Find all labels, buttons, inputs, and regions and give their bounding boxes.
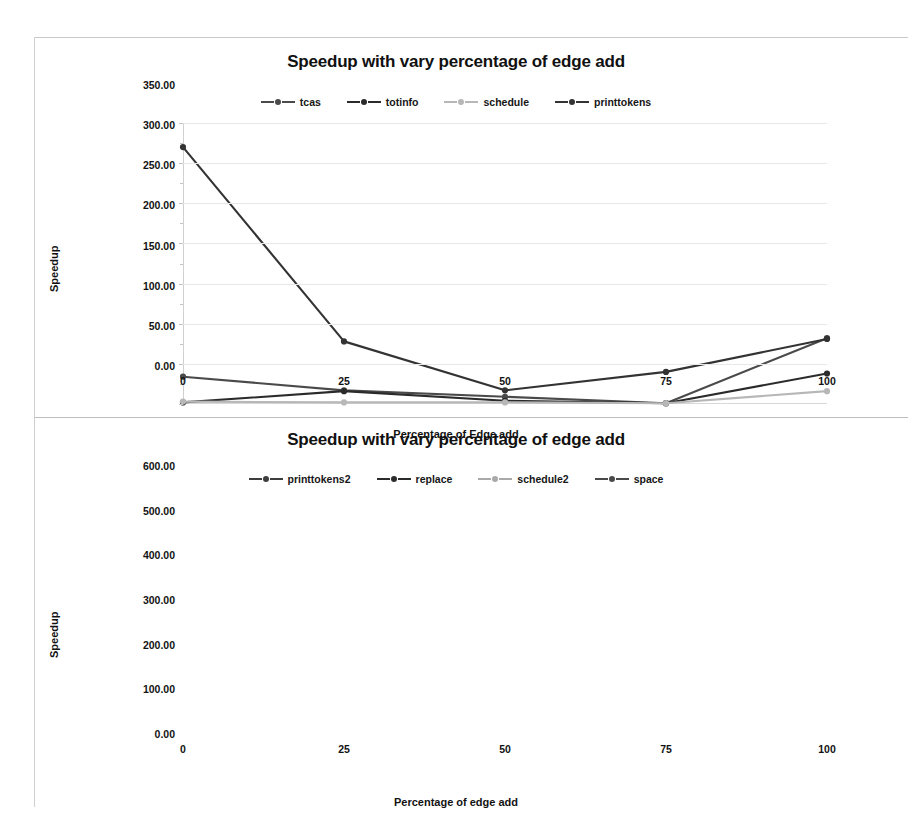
chart-panel-bottom: Speedup with vary percentage of edge add… <box>0 418 912 808</box>
legend-label: tcas <box>300 96 321 108</box>
chart-legend: tcas totinfo schedule printtokens <box>0 96 912 108</box>
y-axis-title: Speedup <box>48 246 60 292</box>
x-axis-tick-label: 75 <box>646 375 686 387</box>
y-axis-tick-label: 400.00 <box>113 549 175 561</box>
y-axis-tick-label: 600.00 <box>113 460 175 472</box>
legend-line-icon <box>270 478 283 481</box>
data-point-schedule <box>502 399 508 405</box>
y-axis-tick-label: 0.00 <box>113 728 175 740</box>
y-axis-tick <box>179 364 183 365</box>
x-axis-tick-label: 50 <box>485 743 525 755</box>
y-axis-title: Speedup <box>48 612 60 658</box>
legend-item-schedule2[interactable]: schedule2 <box>478 473 568 485</box>
legend-line-icon <box>616 478 629 481</box>
y-axis-tick <box>179 243 183 244</box>
legend-label: replace <box>416 473 453 485</box>
y-axis-minor-tick <box>180 143 183 144</box>
legend-marker-icon <box>458 99 464 105</box>
legend-marker-icon <box>609 476 615 482</box>
legend-line-icon <box>576 101 589 104</box>
y-axis-tick <box>179 123 183 124</box>
legend-marker-icon <box>569 99 575 105</box>
legend-item-space[interactable]: space <box>595 473 664 485</box>
y-axis-tick <box>179 203 183 204</box>
y-axis-minor-tick <box>180 183 183 184</box>
legend-line-icon <box>347 101 360 104</box>
legend-line-icon <box>478 478 491 481</box>
x-axis-tick-label: 75 <box>646 743 686 755</box>
gridline <box>183 364 827 365</box>
legend-line-icon <box>249 478 262 481</box>
data-point-printtokens <box>502 387 508 393</box>
legend-item-printtokens2[interactable]: printtokens2 <box>249 473 351 485</box>
x-axis-tick-label: 0 <box>163 743 203 755</box>
x-axis-tick-label: 0 <box>163 375 203 387</box>
legend-item-printtokens[interactable]: printtokens <box>555 96 651 108</box>
y-axis-minor-tick <box>180 304 183 305</box>
data-point-schedule <box>824 388 830 394</box>
legend-item-totinfo[interactable]: totinfo <box>347 96 419 108</box>
data-point-schedule <box>341 399 347 405</box>
y-axis-tick <box>179 324 183 325</box>
chart-legend: printtokens2 replace schedule2 space <box>0 473 912 485</box>
y-axis-tick-label: 500.00 <box>113 505 175 517</box>
legend-marker-icon <box>275 99 281 105</box>
y-axis-tick <box>179 284 183 285</box>
series-line-printtokens <box>183 147 827 390</box>
y-axis-tick-label: 100.00 <box>113 683 175 695</box>
legend-item-tcas[interactable]: tcas <box>261 96 321 108</box>
y-axis-tick-label: 100.00 <box>113 280 175 292</box>
chart-title: Speedup with vary percentage of edge add <box>0 52 912 72</box>
scanned-figure-page: Speedup with vary percentage of edge add… <box>0 0 912 833</box>
data-point-schedule <box>663 400 669 406</box>
x-axis-tick-label: 100 <box>807 743 847 755</box>
gridline <box>183 163 827 164</box>
x-axis-tick-label: 100 <box>807 375 847 387</box>
data-point-totinfo <box>341 388 347 394</box>
y-axis-tick <box>179 163 183 164</box>
legend-label: schedule2 <box>517 473 568 485</box>
y-axis-minor-tick <box>180 264 183 265</box>
y-axis-tick-label: 200.00 <box>113 639 175 651</box>
chart-title: Speedup with vary percentage of edge add <box>0 430 912 450</box>
gridline <box>183 123 827 124</box>
data-point-printtokens <box>824 336 830 342</box>
legend-item-replace[interactable]: replace <box>377 473 453 485</box>
legend-line-icon <box>465 101 478 104</box>
y-axis-tick-label: 0.00 <box>113 360 175 372</box>
legend-line-icon <box>595 478 608 481</box>
legend-line-icon <box>444 101 457 104</box>
y-axis-tick-label: 150.00 <box>113 240 175 252</box>
gridline <box>183 284 827 285</box>
legend-label: totinfo <box>386 96 419 108</box>
legend-line-icon <box>555 101 568 104</box>
gridline <box>183 243 827 244</box>
y-axis-tick-label: 250.00 <box>113 159 175 171</box>
data-point-printtokens <box>180 144 186 150</box>
y-axis-tick-label: 200.00 <box>113 199 175 211</box>
legend-label: schedule <box>483 96 529 108</box>
x-axis-tick-label: 50 <box>485 375 525 387</box>
legend-line-icon <box>282 101 295 104</box>
y-axis-minor-tick <box>180 344 183 345</box>
gridline <box>183 324 827 325</box>
legend-marker-icon <box>391 476 397 482</box>
legend-line-icon <box>377 478 390 481</box>
data-point-printtokens <box>341 338 347 344</box>
gridline <box>183 203 827 204</box>
y-axis-minor-tick <box>180 223 183 224</box>
plot-area <box>183 123 827 404</box>
y-axis-tick-label: 50.00 <box>113 320 175 332</box>
legend-line-icon <box>368 101 381 104</box>
legend-line-icon <box>499 478 512 481</box>
x-axis-tick-label: 25 <box>324 743 364 755</box>
y-axis-tick-label: 300.00 <box>113 119 175 131</box>
x-axis-tick-label: 25 <box>324 375 364 387</box>
series-layer <box>183 123 827 404</box>
legend-label: printtokens <box>594 96 651 108</box>
legend-marker-icon <box>263 476 269 482</box>
legend-label: space <box>634 473 664 485</box>
legend-line-icon <box>261 101 274 104</box>
legend-item-schedule[interactable]: schedule <box>444 96 529 108</box>
x-axis-title: Percentage of edge add <box>0 796 912 808</box>
